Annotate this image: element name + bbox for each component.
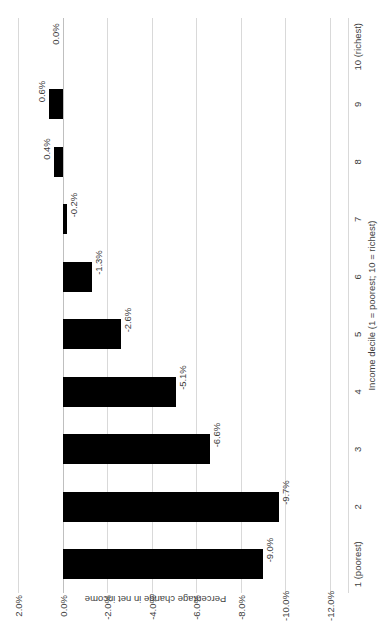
y-tick-label: 2.0% [13,595,24,621]
x-tick-label: 1 (poorest) [352,541,363,587]
bar [54,147,63,177]
x-tick-label: 3 [352,447,363,452]
bar [49,89,62,119]
bar [63,434,210,464]
bar-chart-figure: -9.0%-9.7%-6.6%-5.1%-2.6%-1.3%-0.2%0.4%0… [0,0,382,621]
bar-value-label: -6.6% [211,423,222,447]
category-axis-line [348,18,349,593]
bar [63,377,177,407]
plot-area: -9.0%-9.7%-6.6%-5.1%-2.6%-1.3%-0.2%0.4%0… [18,18,330,593]
bar-value-label: -2.6% [122,308,133,332]
bar-value-label: -0.2% [68,193,79,217]
bar-value-label: -9.0% [264,538,275,562]
x-tick-label: 5 [352,332,363,337]
x-tick-label: 7 [352,217,363,222]
y-axis-title: Percentage change in net income [56,594,256,605]
x-axis-title: Income decile (1 = poorest; 10 = richest… [366,18,377,593]
rotated-figure-wrapper: -9.0%-9.7%-6.6%-5.1%-2.6%-1.3%-0.2%0.4%0… [0,0,382,621]
bar-value-label: 0.6% [36,81,47,102]
x-tick-label: 8 [352,159,363,164]
x-tick-label: 4 [352,389,363,394]
gridline [18,18,19,593]
bar-value-label: 0.4% [41,138,52,159]
gridline [330,18,331,593]
bar [63,549,264,579]
x-tick-label: 9 [352,102,363,107]
gridline [285,18,286,593]
bar [63,319,121,349]
bar [63,262,92,292]
bar [63,492,279,522]
bar-value-label: -1.3% [93,250,104,274]
x-tick-label: 2 [352,504,363,509]
y-tick-label: -10.0% [280,595,291,621]
bar-value-label: 0.0% [50,23,61,44]
bar-value-label: -9.7% [280,480,291,504]
y-tick-label: -12.0% [325,595,336,621]
x-tick-label: 6 [352,274,363,279]
bar [63,204,67,234]
bar-value-label: -5.1% [177,365,188,389]
x-tick-label: 10 (richest) [352,23,363,71]
